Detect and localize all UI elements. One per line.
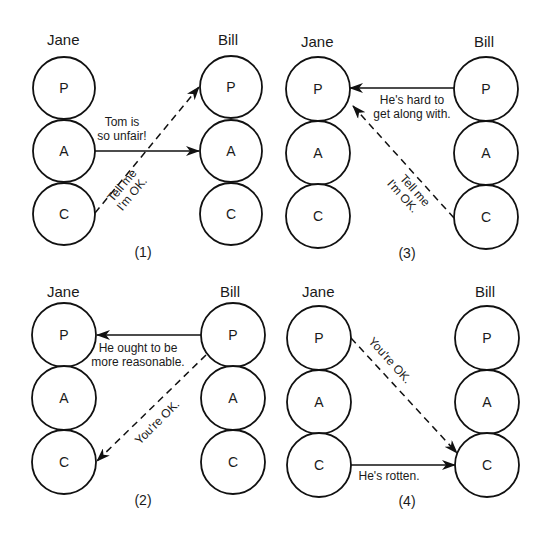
bill-ego-states: P A C [454, 57, 518, 249]
panel-3: Jane Bill P A C P A C He's hard to get a… [286, 33, 518, 261]
svg-text:You're OK.: You're OK. [132, 397, 182, 447]
dashed-arrow [97, 355, 206, 461]
jane-label: Jane [47, 31, 80, 48]
bill-ego-states: P A C [200, 56, 262, 245]
jane-child-label: C [313, 208, 323, 224]
panel-1: Jane Bill P A C P A C Tom is so unfair! … [33, 31, 262, 260]
panel-4: Jane Bill P A C P A C He's rotten. You'r… [287, 283, 519, 509]
jane-label: Jane [47, 283, 80, 300]
bill-ego-states: P A C [455, 306, 519, 497]
bill-adult-label: A [481, 145, 491, 161]
message-line-2: get along with. [373, 107, 450, 121]
bill-label: Bill [475, 283, 495, 300]
jane-parent-label: P [313, 81, 322, 97]
message-line-1: Tom is [105, 115, 140, 129]
jane-parent-label: P [59, 80, 68, 96]
jane-child-label: C [59, 454, 69, 470]
jane-adult-label: A [59, 390, 69, 406]
message-line-1: He ought to be [99, 341, 178, 355]
bill-parent-label: P [228, 327, 237, 343]
bill-label: Bill [218, 31, 238, 48]
bill-label: Bill [474, 33, 494, 50]
panel-number: (2) [134, 492, 151, 508]
jane-ego-states: P A C [287, 306, 351, 497]
bill-parent-label: P [226, 79, 235, 95]
panel-2: Jane Bill P A C P A C He ought to be mor… [32, 283, 265, 508]
bill-adult-label: A [228, 390, 238, 406]
jane-ego-states: P A C [33, 57, 95, 245]
transaction-diagram: Jane Bill P A C P A C Tom is so unfair! … [0, 0, 550, 538]
jane-ego-states: P A C [32, 303, 96, 494]
bill-adult-label: A [226, 143, 236, 159]
jane-child-label: C [314, 457, 324, 473]
panel-number: (4) [398, 493, 415, 509]
jane-child-label: C [59, 206, 69, 222]
dashed-message: You're OK. [366, 334, 415, 386]
jane-adult-label: A [59, 143, 69, 159]
jane-parent-label: P [314, 330, 323, 346]
message-line-2: so unfair! [97, 129, 146, 143]
bill-parent-label: P [482, 330, 491, 346]
bill-parent-label: P [481, 81, 490, 97]
jane-label: Jane [301, 33, 334, 50]
panel-number: (3) [398, 245, 415, 261]
message-line-2: more reasonable. [91, 355, 184, 369]
dashed-arrow [351, 338, 457, 453]
svg-text:You're OK.: You're OK. [366, 334, 415, 386]
bill-child-label: C [481, 209, 491, 225]
bill-child-label: C [228, 454, 238, 470]
dashed-message: Tell me I'm OK. [384, 168, 433, 218]
jane-label: Jane [302, 283, 335, 300]
message-line-1: He's rotten. [359, 469, 420, 483]
jane-ego-states: P A C [286, 57, 350, 248]
jane-parent-label: P [59, 327, 68, 343]
dashed-message: You're OK. [132, 397, 182, 447]
bill-child-label: C [482, 457, 492, 473]
bill-adult-label: A [482, 394, 492, 410]
jane-adult-label: A [313, 145, 323, 161]
jane-adult-label: A [314, 394, 324, 410]
bill-ego-states: P A C [201, 303, 265, 494]
message-line-1: He's hard to [380, 93, 445, 107]
bill-child-label: C [226, 206, 236, 222]
panel-number: (1) [134, 244, 151, 260]
dashed-message: Tell me I'm OK. [104, 166, 150, 214]
bill-label: Bill [220, 283, 240, 300]
